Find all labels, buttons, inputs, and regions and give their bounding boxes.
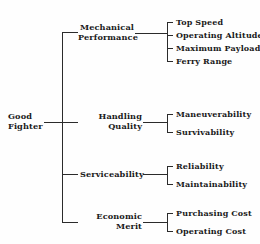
leaf-operating-altitude[interactable]: Operating Altitude (176, 31, 260, 40)
leaf-survivability[interactable]: Survivability (176, 128, 234, 137)
leaf-ferry-range[interactable]: Ferry Range (176, 57, 232, 66)
leaf-top-speed[interactable]: Top Speed (176, 18, 223, 27)
leaf-reliability[interactable]: Reliability (176, 162, 224, 171)
node-serviceability-line1: Serviceability (80, 170, 142, 180)
leaf-operating-cost[interactable]: Operating Cost (176, 227, 246, 236)
hierarchy-diagram: Good Fighter Mechanical Performance Top … (0, 0, 260, 244)
node-serviceability[interactable]: Serviceability (80, 170, 142, 180)
node-good-fighter-line2: Fighter (8, 122, 44, 132)
node-economic-merit[interactable]: Economic Merit (82, 212, 142, 231)
node-handling-quality-line2: Quality (82, 122, 142, 132)
node-economic-merit-line2: Merit (82, 222, 142, 232)
leaf-maintainability[interactable]: Maintainability (176, 180, 247, 189)
node-mechanical-performance-line2: Performance (78, 33, 134, 43)
leaf-maximum-payload[interactable]: Maximum Payload (176, 44, 260, 53)
node-handling-quality[interactable]: Handling Quality (82, 112, 142, 131)
node-good-fighter[interactable]: Good Fighter (8, 112, 44, 131)
leaf-purchasing-cost[interactable]: Purchasing Cost (176, 209, 252, 218)
node-mechanical-performance[interactable]: Mechanical Performance (78, 23, 134, 42)
leaf-maneuverability[interactable]: Maneuverability (176, 110, 251, 119)
